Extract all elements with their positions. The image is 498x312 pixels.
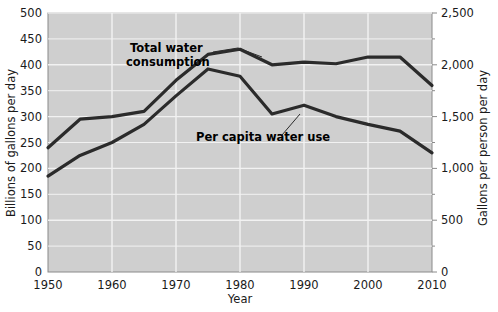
x-tick-label: 2010 [417, 278, 446, 292]
y-left-tick-label: 300 [20, 110, 42, 124]
y-right-tick-label: 2,500 [441, 6, 474, 20]
y-left-tick-label: 400 [20, 58, 42, 72]
x-tick-label: 1970 [161, 278, 190, 292]
y-left-tick-label: 350 [20, 84, 42, 98]
y-axis-right-tick-labels: 05001,0001,5002,0002,500 [432, 6, 474, 279]
y-left-tick-label: 250 [20, 136, 42, 150]
y-right-tick-label: 1,500 [441, 110, 474, 124]
y-left-tick-label: 200 [20, 161, 42, 175]
y-axis-left-title: Billions of gallons per day [4, 69, 18, 217]
chart-container: 050100150200250300350400450500 05001,000… [0, 0, 498, 312]
annotation-per-capita-water-use: Per capita water use [196, 130, 330, 144]
y-left-tick-label: 150 [20, 187, 42, 201]
y-right-tick-label: 2,000 [441, 58, 474, 72]
x-tick-label: 1950 [33, 278, 62, 292]
x-axis-title: Year [227, 292, 253, 306]
y-left-tick-label: 500 [20, 6, 42, 20]
y-right-tick-label: 1,000 [441, 161, 474, 175]
water-use-line-chart: 050100150200250300350400450500 05001,000… [0, 0, 498, 312]
y-left-tick-label: 100 [20, 213, 42, 227]
y-left-tick-label: 50 [27, 239, 42, 253]
x-axis-tick-labels: 1950196019701980199020002010 [33, 278, 446, 292]
y-left-tick-label: 0 [35, 265, 42, 279]
annotation-total-water-line2: consumption [126, 55, 210, 69]
y-axis-left-tick-labels: 050100150200250300350400450500 [20, 6, 42, 279]
y-right-tick-label: 0 [441, 265, 448, 279]
annotation-total-water-line1: Total water [130, 41, 203, 55]
x-tick-label: 1960 [97, 278, 126, 292]
y-axis-right-title: Gallons per person per day [476, 70, 490, 226]
x-tick-label: 1980 [225, 278, 254, 292]
y-left-tick-label: 450 [20, 32, 42, 46]
x-tick-label: 2000 [353, 278, 382, 292]
x-tick-label: 1990 [289, 278, 318, 292]
y-right-tick-label: 500 [441, 213, 463, 227]
